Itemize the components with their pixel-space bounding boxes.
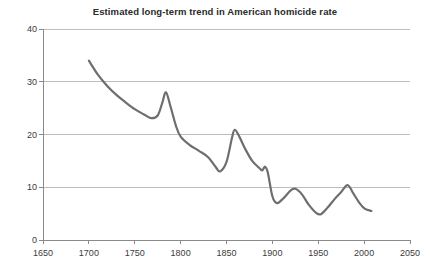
chart-container: Estimated long-term trend in American ho…	[0, 0, 430, 278]
plot-area	[0, 0, 430, 278]
x-tick-label: 1650	[33, 248, 53, 258]
x-tick-label: 1850	[216, 248, 236, 258]
y-tick-label: 0	[7, 235, 37, 245]
x-tick-label: 1700	[79, 248, 99, 258]
x-tick-label: 1900	[262, 248, 282, 258]
x-tick-label: 1950	[308, 248, 328, 258]
axis-ticks	[39, 29, 410, 244]
series-line	[89, 61, 372, 215]
x-tick-label: 1800	[171, 248, 191, 258]
y-tick-label: 10	[7, 182, 37, 192]
y-tick-label: 30	[7, 77, 37, 87]
x-tick-label: 2050	[400, 248, 420, 258]
x-tick-label: 2000	[354, 248, 374, 258]
x-tick-label: 1750	[125, 248, 145, 258]
y-tick-label: 20	[7, 130, 37, 140]
y-tick-label: 40	[7, 24, 37, 34]
data-series	[89, 61, 372, 215]
